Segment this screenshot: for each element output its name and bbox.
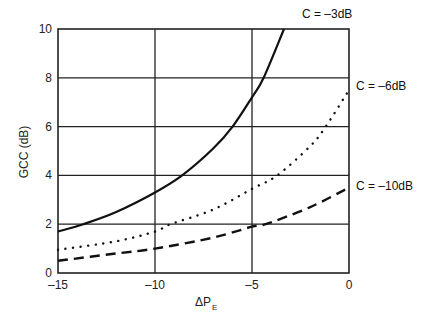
curve-label-c-10db: C = –10dB (356, 179, 413, 193)
y-axis-label: GCC (dB) (17, 126, 31, 179)
curve-solid (58, 29, 284, 232)
x-axis-label-subscript: E (212, 303, 217, 312)
curves (58, 29, 349, 261)
y-axis-ticks: 0246810 (39, 22, 53, 280)
y-tick-label: 10 (39, 22, 53, 36)
y-tick-label: 2 (45, 217, 52, 231)
y-tick-label: 4 (45, 168, 52, 182)
grid-lines (58, 29, 349, 273)
curve-dotted (58, 90, 349, 250)
x-axis-ticks: –15–10–50 (48, 278, 353, 292)
y-tick-label: 6 (45, 120, 52, 134)
x-axis-label-main: ΔP (195, 295, 211, 309)
plot-frame (58, 29, 349, 273)
x-tick-label: 0 (346, 278, 353, 292)
x-axis-label: ΔP E (195, 295, 217, 312)
y-tick-label: 8 (45, 71, 52, 85)
x-tick-label: –10 (145, 278, 165, 292)
curve-label-c-6db: C = –6dB (356, 79, 406, 93)
curve-label-c-3db: C = –3dB (302, 7, 352, 21)
gcc-chart: 0246810 –15–10–50 C = –3dB C = –6dB C = … (0, 0, 427, 320)
x-tick-label: –5 (245, 278, 259, 292)
x-tick-label: –15 (48, 278, 68, 292)
